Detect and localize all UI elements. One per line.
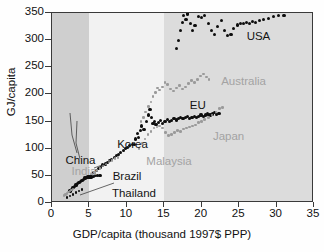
data-point-usa	[177, 39, 180, 42]
data-point-usa	[272, 15, 275, 18]
x-tick-label: 35	[298, 208, 324, 220]
series-label-korea: Korea	[117, 139, 148, 151]
data-point-australia	[142, 116, 145, 119]
data-point-australia	[181, 88, 184, 91]
data-point-eu	[139, 129, 142, 132]
plot-area: USAAustraliaEUJapanKoreaMalaysiaChinaInd…	[51, 12, 313, 202]
data-point-japan	[150, 130, 153, 133]
y-tick-label: 50	[0, 169, 44, 181]
x-tick-label: 30	[261, 208, 291, 220]
data-point-brazil	[98, 174, 101, 177]
series-label-thailand: Thailand	[112, 188, 156, 200]
y-tick-label: 150	[0, 115, 44, 127]
y-tick-label: 0	[0, 196, 44, 208]
x-tick-label: 0	[36, 208, 66, 220]
data-point-malaysia	[111, 159, 114, 162]
series-label-australia: Australia	[221, 76, 266, 88]
data-point-usa	[193, 24, 196, 27]
data-point-malaysia	[114, 157, 117, 160]
data-point-australia	[193, 81, 196, 84]
data-point-usa	[175, 47, 178, 50]
data-point-australia	[154, 91, 157, 94]
data-point-usa	[229, 33, 232, 36]
data-point-australia	[202, 73, 205, 76]
data-point-australia	[196, 78, 199, 81]
data-point-eu	[148, 108, 151, 111]
x-tick-label: 5	[73, 208, 103, 220]
data-point-japan	[203, 118, 206, 121]
data-point-eu	[145, 120, 148, 123]
data-point-japan	[194, 124, 197, 127]
data-point-usa	[254, 21, 257, 24]
data-point-usa	[210, 29, 213, 32]
series-label-japan: Japan	[213, 131, 244, 143]
high-income-band	[164, 13, 313, 201]
data-point-japan	[179, 130, 182, 133]
data-point-japan	[221, 106, 224, 109]
y-tick-label: 300	[0, 33, 44, 45]
data-point-usa	[223, 29, 226, 32]
data-point-eu	[150, 116, 153, 119]
x-tick-label: 25	[223, 208, 253, 220]
series-label-eu: EU	[190, 100, 206, 112]
y-tick-label: 200	[0, 87, 44, 99]
y-tick-label: 350	[0, 6, 44, 18]
data-point-australia	[175, 87, 178, 90]
data-point-australia	[166, 83, 169, 86]
data-point-australia	[199, 75, 202, 78]
series-label-usa: USA	[247, 31, 271, 43]
y-tick-label: 250	[0, 60, 44, 72]
series-label-brazil: Brazil	[113, 171, 142, 183]
data-point-malaysia	[117, 156, 120, 159]
data-point-usa	[267, 17, 270, 20]
y-tick-label: 100	[0, 142, 44, 154]
data-point-japan	[164, 131, 167, 134]
data-point-thailand	[72, 193, 75, 196]
data-point-usa	[220, 19, 223, 22]
x-axis-title: GDP/capita (thousand 1997$ PPP)	[0, 228, 324, 240]
data-point-japan	[147, 133, 150, 136]
series-label-india: India	[71, 166, 96, 178]
data-point-thailand	[81, 188, 84, 191]
data-point-malaysia	[99, 167, 102, 170]
data-point-eu	[136, 132, 139, 135]
data-point-australia	[178, 84, 181, 87]
data-point-australia	[184, 86, 187, 89]
data-point-usa	[282, 14, 285, 17]
energy-gdp-scatter-chart: GJ/capita 050100150200250300350 USAAustr…	[0, 0, 324, 252]
data-point-japan	[207, 116, 210, 119]
data-point-usa	[262, 18, 265, 21]
x-tick-label: 20	[186, 208, 216, 220]
data-point-eu	[142, 128, 145, 131]
data-point-eu	[217, 112, 220, 115]
x-tick-label: 10	[111, 208, 141, 220]
data-point-australia	[187, 82, 190, 85]
data-point-thailand	[66, 196, 69, 199]
data-point-usa	[186, 12, 189, 15]
series-label-malaysia: Malaysia	[146, 156, 191, 168]
data-point-usa	[184, 18, 187, 21]
x-tick-label: 15	[148, 208, 178, 220]
